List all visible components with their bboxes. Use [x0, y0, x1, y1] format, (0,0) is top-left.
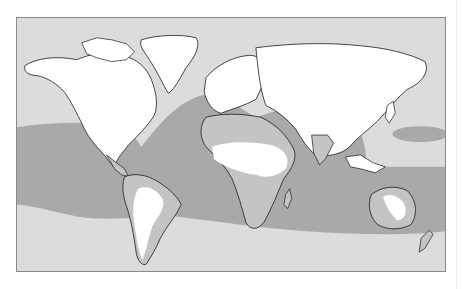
world-map — [16, 17, 446, 272]
map-canvas — [17, 18, 445, 271]
page-edge-rule — [456, 0, 457, 289]
